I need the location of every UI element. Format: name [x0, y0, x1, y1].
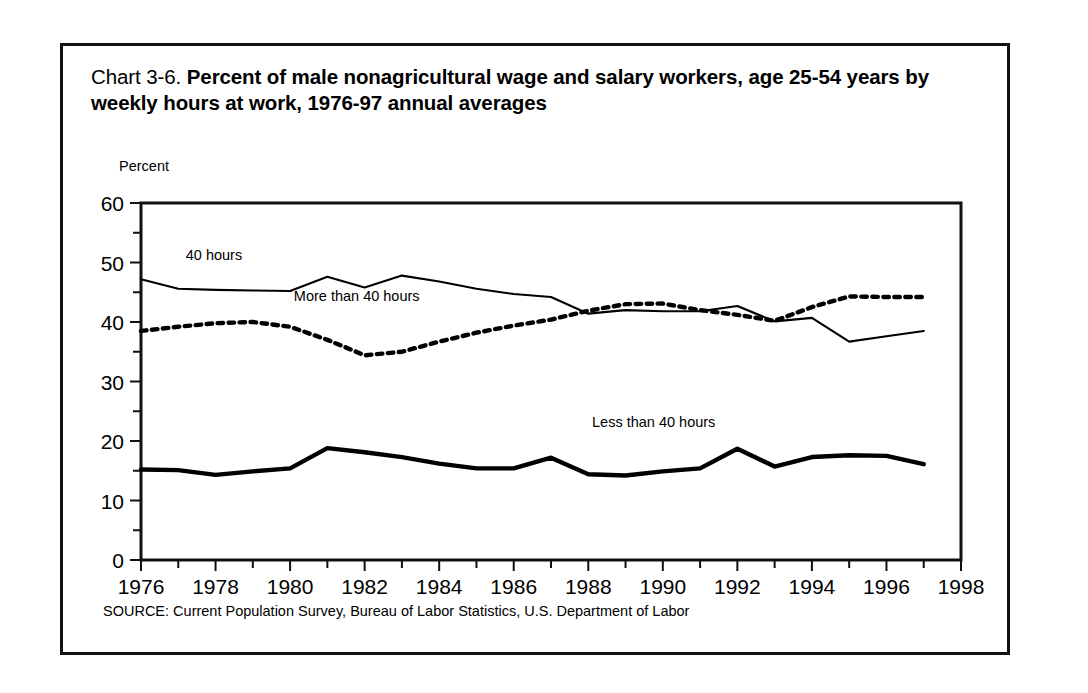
x-tick-label: 1978 — [192, 575, 239, 598]
y-tick-label: 0 — [112, 549, 124, 572]
y-tick-label: 50 — [101, 252, 124, 275]
x-tick-label: 1984 — [416, 575, 463, 598]
x-tick-label: 1992 — [714, 575, 761, 598]
x-tick-label: 1976 — [118, 575, 165, 598]
x-tick-label: 1994 — [789, 575, 836, 598]
y-tick-label: 30 — [101, 371, 124, 394]
chart-svg: 0102030405060 19761978198019821984198619… — [63, 46, 1013, 658]
x-tick-label: 1990 — [639, 575, 686, 598]
source-note: SOURCE: Current Population Survey, Burea… — [103, 603, 689, 619]
axes — [141, 203, 961, 560]
tick-marks — [130, 203, 961, 571]
series-label: 40 hours — [186, 247, 242, 263]
y-tick-label: 10 — [101, 490, 124, 513]
data-series — [141, 276, 924, 476]
x-tick-labels: 1976197819801982198419861988199019921994… — [118, 575, 985, 598]
chart-figure-frame: Chart 3-6. Percent of male nonagricultur… — [60, 43, 1010, 655]
series-line — [141, 448, 924, 475]
x-tick-label: 1986 — [490, 575, 537, 598]
y-tick-labels: 0102030405060 — [101, 192, 124, 572]
y-tick-label: 40 — [101, 311, 124, 334]
series-label: More than 40 hours — [294, 288, 420, 304]
y-tick-label: 60 — [101, 192, 124, 215]
series-label: Less than 40 hours — [592, 414, 715, 430]
series-line — [141, 296, 924, 355]
x-tick-label: 1982 — [341, 575, 388, 598]
x-tick-label: 1980 — [267, 575, 314, 598]
x-tick-label: 1998 — [938, 575, 985, 598]
x-tick-label: 1996 — [863, 575, 910, 598]
x-tick-label: 1988 — [565, 575, 612, 598]
y-tick-label: 20 — [101, 430, 124, 453]
plot-area: 0102030405060 19761978198019821984198619… — [63, 46, 1013, 658]
